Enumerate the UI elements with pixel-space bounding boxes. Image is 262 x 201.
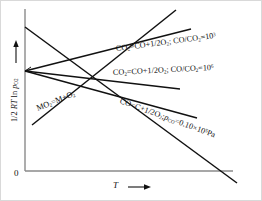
- x-axis-label: T: [113, 181, 118, 190]
- x-axis-arrow-icon: [128, 184, 151, 189]
- series-line-unlabeled: [25, 71, 197, 118]
- axis-origin-label: 0: [14, 169, 19, 178]
- y-axis-label: 1/2 RT ln pO2: [11, 55, 19, 145]
- ellingham-diagram-figure: CO2=CO+1/2O2; CO/CO2=103 CO2=CO+1/2O2; C…: [0, 0, 262, 201]
